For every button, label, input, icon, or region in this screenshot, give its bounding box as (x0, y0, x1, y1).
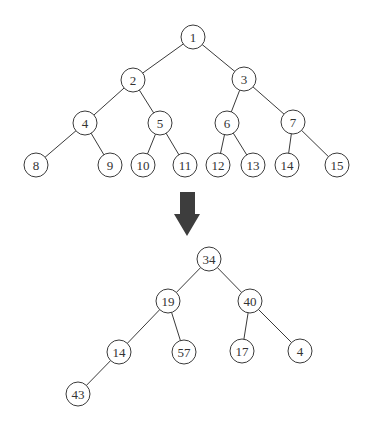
top-tree-edges (36, 37, 337, 165)
tree-node: 5 (148, 111, 172, 135)
node-label: 7 (290, 115, 297, 130)
tree-node: 7 (281, 110, 305, 134)
node-label: 57 (178, 345, 192, 360)
tree-node: 15 (325, 153, 349, 177)
node-label: 19 (162, 294, 175, 309)
bottom-tree-edges (78, 259, 300, 394)
tree-node: 2 (121, 68, 145, 92)
node-label: 2 (130, 73, 137, 88)
tree-node: 40 (238, 289, 262, 313)
tree-node: 10 (131, 153, 155, 177)
node-label: 3 (241, 72, 248, 87)
tree-node: 13 (241, 153, 265, 177)
node-label: 4 (82, 116, 89, 131)
tree-node: 19 (156, 289, 180, 313)
tree-node: 1 (181, 25, 205, 49)
tree-node: 4 (73, 111, 97, 135)
node-label: 8 (33, 158, 40, 173)
tree-node: 14 (275, 153, 299, 177)
node-label: 1 (190, 30, 197, 45)
node-label: 14 (113, 345, 127, 360)
node-label: 14 (281, 158, 295, 173)
arrow-shape (174, 192, 200, 236)
top-tree-nodes: 123456789101112131415 (24, 25, 349, 177)
node-label: 9 (107, 158, 114, 173)
node-label: 12 (212, 158, 225, 173)
tree-node: 17 (230, 339, 254, 363)
node-label: 11 (179, 158, 192, 173)
tree-node: 8 (24, 153, 48, 177)
node-label: 5 (157, 116, 164, 131)
tree-node: 9 (98, 153, 122, 177)
tree-node: 4 (288, 339, 312, 363)
tree-node: 43 (66, 382, 90, 406)
node-label: 43 (72, 387, 85, 402)
node-label: 10 (137, 158, 150, 173)
tree-node: 57 (172, 340, 196, 364)
tree-diagram-canvas: 123456789101112131415 341940145717443 (0, 0, 367, 428)
node-label: 15 (331, 158, 344, 173)
node-label: 34 (203, 252, 217, 267)
node-label: 6 (224, 116, 231, 131)
tree-node: 14 (107, 340, 131, 364)
node-label: 13 (247, 158, 260, 173)
node-label: 4 (297, 344, 304, 359)
tree-node: 34 (197, 247, 221, 271)
tree-node: 11 (173, 153, 197, 177)
tree-node: 12 (206, 153, 230, 177)
node-label: 17 (236, 344, 250, 359)
down-arrow-icon (174, 192, 200, 236)
tree-node: 6 (215, 111, 239, 135)
tree-node: 3 (232, 67, 256, 91)
node-label: 40 (244, 294, 257, 309)
